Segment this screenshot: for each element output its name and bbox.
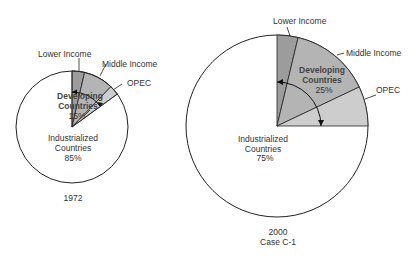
label-industrialized-pct-1972: 85% bbox=[64, 153, 81, 163]
caption-1972: 1972 bbox=[64, 193, 83, 203]
caption-2000: 2000 bbox=[269, 227, 288, 237]
label-developing-pct-2000: 25% bbox=[315, 85, 332, 95]
label-middle-income-1972: Middle Income bbox=[102, 59, 158, 69]
pie-charts: Lower Income Middle Income OPEC Developi… bbox=[0, 0, 419, 257]
label-developing-1972: Developing bbox=[57, 91, 103, 101]
label-developing-countries-1972: Countries bbox=[58, 101, 98, 111]
caption-case: Case C-1 bbox=[260, 237, 296, 247]
pie-1972: Lower Income Middle Income OPEC Developi… bbox=[16, 49, 158, 203]
label-industrialized-1972: Industrialized bbox=[48, 133, 98, 143]
label-industrialized-countries-1972: Countries bbox=[55, 143, 91, 153]
label-lower-income-1972: Lower Income bbox=[38, 49, 92, 59]
label-opec-2000: OPEC bbox=[376, 85, 400, 95]
label-developing-2000: Developing bbox=[299, 65, 345, 75]
pie-2000: Lower Income Middle Income OPEC Developi… bbox=[186, 16, 402, 247]
label-opec-1972: OPEC bbox=[127, 78, 151, 88]
label-lower-income-2000: Lower Income bbox=[273, 16, 327, 26]
label-developing-countries-2000: Countries bbox=[302, 75, 342, 85]
label-industrialized-2000: Industrialized bbox=[238, 134, 288, 144]
label-middle-income-2000: Middle Income bbox=[346, 48, 402, 58]
label-developing-pct-1972: 15% bbox=[68, 111, 85, 121]
label-industrialized-pct-2000: 75% bbox=[256, 153, 273, 163]
